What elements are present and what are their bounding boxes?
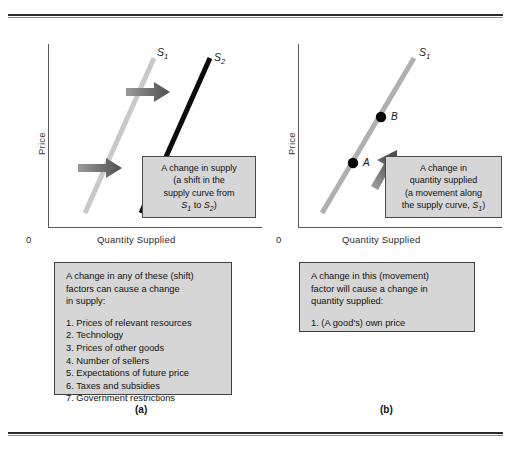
curve-label-s1: S1 xyxy=(157,46,168,61)
list-intro: A change in any of these (shift) factors… xyxy=(66,270,222,308)
callout-line-4: the supply curve, S1) xyxy=(390,199,497,215)
list-item: 1. Prices of relevant resources xyxy=(66,317,222,330)
list-intro: A change in this (movement) factor will … xyxy=(311,270,465,308)
panel-b-plot: Price S1 xyxy=(272,40,502,228)
curve-label-s2: S2 xyxy=(214,51,225,66)
supply-curve-figure: Price xyxy=(0,0,511,451)
panel-b-factor-list: A change in this (movement) factor will … xyxy=(299,262,475,332)
shift-arrow-upper-icon xyxy=(126,82,170,102)
panel-a-caption: (a) xyxy=(135,404,147,415)
panel-b-origin: 0 xyxy=(276,234,281,245)
intro-line-3: quantity supplied: xyxy=(311,296,383,306)
panel-a-origin: 0 xyxy=(26,234,31,245)
callout-line-3: (a movement along xyxy=(390,187,497,199)
intro-line-2: factors can cause a change xyxy=(66,284,180,294)
list-item: 4. Number of sellers xyxy=(66,355,222,368)
curve-label-s1: S1 xyxy=(419,46,430,61)
panel-a-factor-list: A change in any of these (shift) factors… xyxy=(54,262,232,395)
top-rule xyxy=(8,14,503,18)
callout-line-2: (a shift in the xyxy=(147,174,251,186)
intro-line-3: in supply: xyxy=(66,296,105,306)
panel-b-caption: (b) xyxy=(380,404,393,415)
intro-line-2: factor will cause a change in xyxy=(311,284,428,294)
list-item: 3. Prices of other goods xyxy=(66,342,222,355)
point-a-label: A xyxy=(363,157,370,168)
intro-line-1: A change in this (movement) xyxy=(311,271,429,281)
list-item: 5. Expectations of future price xyxy=(66,367,222,380)
callout-line-1: A change in xyxy=(390,162,497,174)
callout-line-1: A change in supply xyxy=(147,162,251,174)
panel-a-plot: Price xyxy=(22,40,262,228)
callout-line-2: quantity supplied xyxy=(390,174,497,186)
panel-a-x-axis-label: Quantity Supplied xyxy=(97,234,175,245)
callout-line-3: supply curve from xyxy=(147,187,251,199)
point-b-dot xyxy=(376,112,386,122)
point-a-dot xyxy=(348,158,358,168)
panel-b-y-axis-label: Price xyxy=(286,132,297,155)
panel-b-x-axis-label: Quantity Supplied xyxy=(342,234,420,245)
list-item: 6. Taxes and subsidies xyxy=(66,380,222,393)
intro-line-1: A change in any of these (shift) xyxy=(66,271,194,281)
panel-b-callout: A change in quantity supplied (a movemen… xyxy=(385,156,502,218)
bottom-rule xyxy=(8,432,503,436)
point-b-label: B xyxy=(391,111,398,122)
callout-line-4: S1 to S2) xyxy=(147,199,251,215)
list-item: 1. (A good's) own price xyxy=(311,317,465,330)
list-item: 2. Technology xyxy=(66,329,222,342)
panel-a-y-axis-label: Price xyxy=(36,132,47,155)
panel-a-callout: A change in supply (a shift in the suppl… xyxy=(142,156,256,218)
